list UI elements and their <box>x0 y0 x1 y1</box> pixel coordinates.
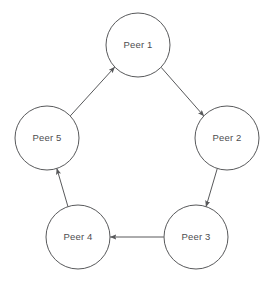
node-peer5-label: Peer 5 <box>32 132 61 143</box>
node-peer4-label: Peer 4 <box>63 231 92 242</box>
node-peer1-label: Peer 1 <box>123 39 152 50</box>
node-peer2[interactable]: Peer 2 <box>195 106 259 170</box>
peer-network-diagram: Peer 1 Peer 2 Peer 3 Peer 4 Peer 5 <box>0 0 275 283</box>
node-peer3-label: Peer 3 <box>181 231 210 242</box>
node-peer3[interactable]: Peer 3 <box>164 205 228 269</box>
node-peer1[interactable]: Peer 1 <box>106 13 170 77</box>
node-peer2-label: Peer 2 <box>212 132 241 143</box>
node-peer5[interactable]: Peer 5 <box>15 106 79 170</box>
network-canvas: Peer 1 Peer 2 Peer 3 Peer 4 Peer 5 <box>0 0 275 283</box>
edge-peer2-peer3 <box>206 168 217 206</box>
edge-peer5-peer1 <box>70 67 115 116</box>
edge-peer4-peer5 <box>57 168 68 206</box>
nodes-group: Peer 1 Peer 2 Peer 3 Peer 4 Peer 5 <box>15 13 259 269</box>
node-peer4[interactable]: Peer 4 <box>46 205 110 269</box>
edge-peer1-peer2 <box>161 67 204 116</box>
